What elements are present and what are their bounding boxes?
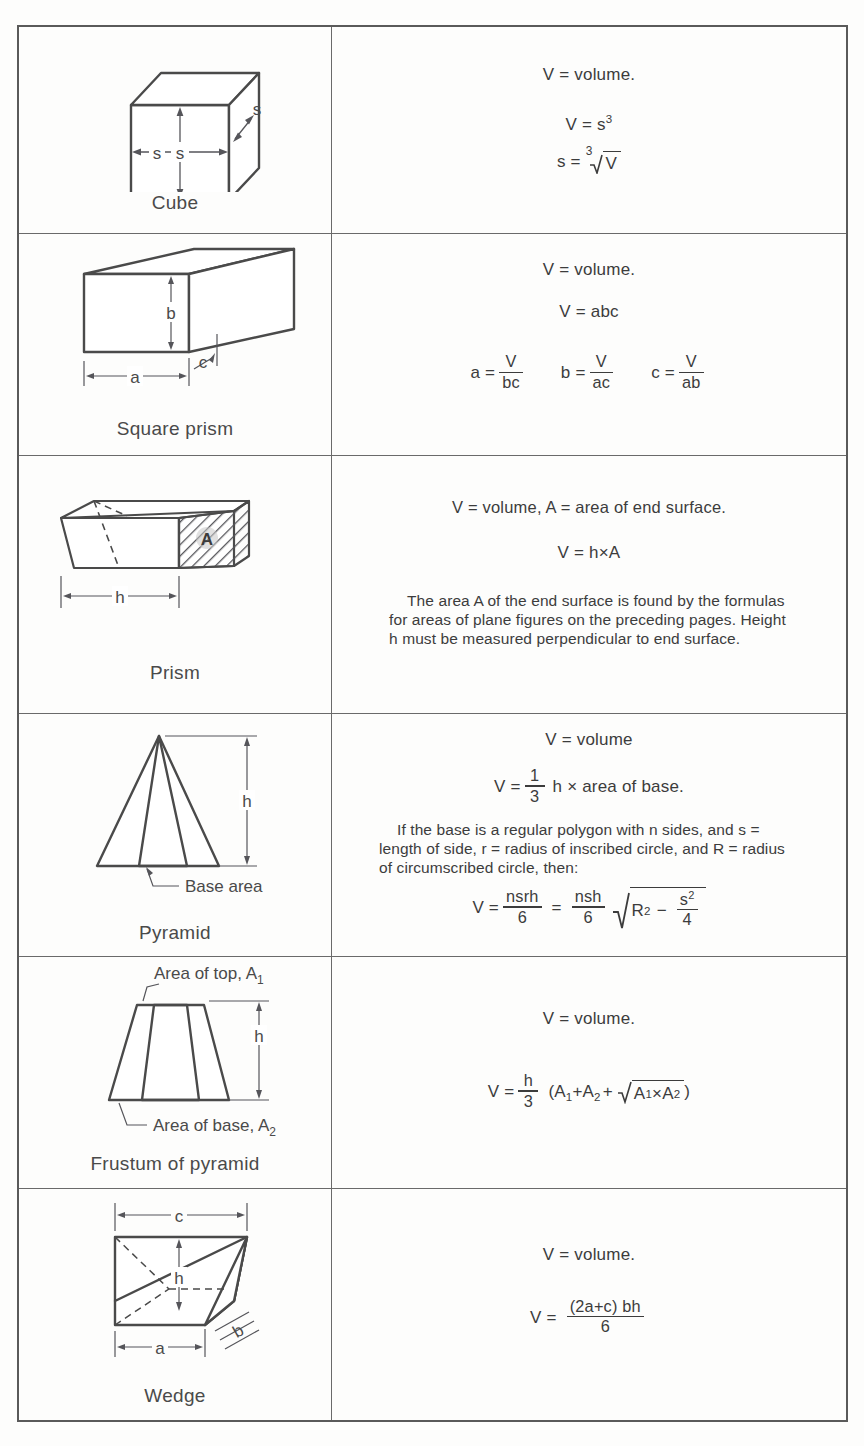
formula-cell-square-prism: V = volume. V = abc a = V bc b =: [332, 234, 846, 454]
fraction-s2-over-4: s2 4: [677, 891, 698, 929]
figure-label-pyramid: Pyramid: [139, 922, 211, 944]
pyramid-definition: V = volume: [545, 730, 633, 750]
denominator: 3: [521, 1093, 536, 1110]
times-A2: ×A: [652, 1084, 674, 1104]
fraction-nsh-over-6: nsh 6: [572, 888, 605, 926]
fraction-one-third: 1 3: [525, 767, 545, 805]
wedge-label-b: b: [229, 1320, 246, 1341]
table-row: h Base area Pyramid V = volume V = 1 3 h…: [19, 714, 846, 957]
fraction-nsrh-over-6: nsrh 6: [503, 888, 542, 926]
frustum-label-h: h: [254, 1027, 263, 1046]
frustum-volume: V = h 3 (A1+A2+ A1×A2: [488, 1073, 690, 1111]
numerator: V: [683, 353, 700, 370]
table-row: Area of top, A1: [19, 957, 846, 1188]
table-row: A h Prism V = volume, A =: [19, 456, 846, 714]
fraction-v-over-bc: V bc: [499, 353, 523, 391]
radical-sign-icon: [613, 887, 630, 930]
radicand-A1: A: [634, 1084, 646, 1104]
frustum-label-top: Area of top, A1: [154, 964, 264, 987]
prism-definition: V = volume, A = area of end surface.: [452, 498, 726, 517]
prism-label-a: a: [130, 368, 140, 387]
open-paren-A: (A: [548, 1082, 565, 1101]
frustum-base-subscript: 2: [269, 1125, 276, 1139]
denominator: 4: [680, 911, 695, 928]
pyramid-note: If the base is a regular polygon with n …: [379, 820, 799, 877]
prism-label-c: c: [198, 353, 207, 372]
prism-note: The area A of the end surface is found b…: [389, 591, 789, 648]
square-root-expression: A1×A2: [618, 1080, 684, 1104]
solve-a-lhs: a =: [470, 363, 495, 383]
denominator: bc: [499, 374, 523, 391]
radicand-group: A1×A2: [632, 1080, 684, 1104]
denominator: ab: [679, 374, 704, 391]
figure-label-cube: Cube: [152, 192, 199, 214]
polygon-volume-lhs: V =: [472, 898, 499, 918]
table-row: c: [19, 1189, 846, 1420]
square-prism-volume: V = abc: [559, 302, 619, 322]
formula-cell-wedge: V = volume. V = (2a+c) bh 6: [332, 1189, 846, 1420]
solve-b-lhs: b =: [561, 363, 586, 383]
cube-volume-exponent: 3: [606, 113, 613, 125]
numerator: nsrh: [503, 888, 542, 905]
frustum-area-sum: (A1+A2+: [548, 1082, 612, 1102]
solve-c-lhs: c =: [651, 363, 675, 383]
figure-cell-frustum: Area of top, A1: [19, 957, 332, 1187]
frustum-volume-lhs: V =: [488, 1082, 515, 1102]
table-row: b a c Square prism V = volume. V = abc a…: [19, 234, 846, 455]
wedge-definition: V = volume.: [543, 1245, 635, 1265]
document-page: s s s Cube V = volume. V = s3 s = 3: [0, 0, 864, 1446]
square-prism-solved-forms: a = V bc b = V ac: [470, 354, 707, 392]
figure-label-frustum: Frustum of pyramid: [90, 1153, 259, 1175]
figure-cell-square-prism: b a c Square prism: [19, 234, 332, 454]
cube-label-s-width: s: [152, 144, 161, 163]
rectangular-box-diagram: b a c: [19, 234, 332, 404]
wedge-label-c: c: [174, 1207, 183, 1226]
frustum-top-text: Area of top, A: [154, 964, 258, 983]
cube-cube-root: 3 V: [586, 151, 621, 174]
numerator: s2: [677, 891, 698, 908]
pyramid-diagram: h Base area: [19, 714, 332, 924]
denominator: 6: [515, 909, 530, 926]
denominator: 6: [598, 1318, 613, 1335]
numerator-base: s: [680, 890, 688, 908]
denominator: 6: [581, 909, 596, 926]
wedge-volume-lhs: V =: [530, 1308, 557, 1328]
frustum-base-text: Area of base, A: [153, 1116, 270, 1135]
wedge-label-h: h: [174, 1269, 183, 1288]
figure-cell-prism: A h Prism: [19, 456, 332, 713]
numerator: 1: [527, 767, 542, 784]
solve-for-b: b = V ac: [561, 354, 617, 392]
square-root-expression: R2 − s2 4: [613, 887, 706, 930]
fraction-h-over-3: h 3: [518, 1072, 538, 1110]
pyramid-volume-lhs: V =: [494, 777, 521, 797]
radicand-group: R2 − s2 4: [630, 887, 706, 930]
radical-sign-icon: [618, 1080, 632, 1104]
prism-diagram: A h: [19, 456, 332, 656]
prism-end-area-label: A: [200, 530, 212, 549]
cube-volume-lhs: V = s: [566, 115, 606, 134]
cube-side-lhs: s =: [557, 152, 581, 171]
plus-A2: +A: [572, 1082, 594, 1101]
pyramid-polygon-volume: V = nsrh 6 = nsh 6: [472, 887, 705, 930]
prism-note-text: The area A of the end surface is found b…: [389, 592, 786, 647]
solve-for-c: c = V ab: [651, 354, 707, 392]
radical-sign-icon: [590, 151, 603, 174]
figure-label-wedge: Wedge: [144, 1385, 205, 1407]
pyramid-note-text: If the base is a regular polygon with n …: [379, 821, 785, 876]
equals-sign: =: [552, 898, 562, 918]
frustum-label-base: Area of base, A2: [153, 1116, 276, 1139]
numerator: V: [593, 353, 610, 370]
pyramid-volume-rhs: h × area of base.: [553, 777, 684, 797]
cube-diagram: s s s: [19, 27, 332, 192]
denominator: ac: [590, 374, 614, 391]
prism-label-h: h: [115, 588, 124, 607]
fraction-v-over-ac: V ac: [590, 353, 614, 391]
radicand-R: R: [632, 901, 644, 921]
numerator-exponent: 2: [688, 888, 694, 900]
close-paren: ): [684, 1082, 690, 1102]
solve-for-a: a = V bc: [470, 354, 526, 392]
formula-cell-frustum: V = volume. V = h 3 (A1+A2+: [332, 957, 846, 1187]
fraction-wedge: (2a+c) bh 6: [567, 1298, 644, 1336]
frustum-diagram: Area of top, A1: [19, 957, 332, 1157]
frustum-top-subscript: 1: [257, 973, 264, 987]
